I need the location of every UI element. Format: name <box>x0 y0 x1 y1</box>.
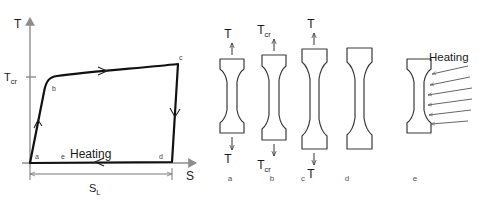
heating-ray-5 <box>429 110 471 115</box>
point-label-b: b <box>52 85 56 92</box>
dimension-label-sub: L <box>96 188 100 197</box>
specimen-e-heating-rays <box>428 66 472 124</box>
specimen-a: T T a <box>220 27 244 183</box>
heating-ray-2 <box>430 77 470 85</box>
ts-cycle-panel: T S Tcr SL Heating a b c d e <box>4 17 196 197</box>
specimen-a-bottom-force-label: T <box>224 152 232 166</box>
y-tick-label-sub: cr <box>11 77 18 86</box>
x-axis-label: S <box>186 169 194 183</box>
specimen-c-body <box>302 49 327 149</box>
specimen-c-bottom-force-label: T <box>307 167 315 181</box>
point-label-c: c <box>179 54 183 61</box>
specimen-a-caption: a <box>228 174 233 183</box>
point-label-a: a <box>35 153 39 160</box>
heating-ray-6 <box>431 121 468 124</box>
specimen-e-caption: e <box>413 174 418 183</box>
specimen-b-body <box>262 55 286 140</box>
point-label-e: e <box>61 153 65 160</box>
specimen-e: Heating e <box>407 51 472 183</box>
specimen-panel: T T a Tcr Tcr b T T c <box>220 17 472 183</box>
figure-svg: T S Tcr SL Heating a b c d e T T a <box>0 0 482 200</box>
specimen-d-caption: d <box>345 174 349 183</box>
specimen-d-body <box>347 48 372 149</box>
specimen-b-top-force-label: Tcr <box>257 23 271 39</box>
heating-ray-1 <box>432 66 468 74</box>
specimen-b: Tcr Tcr b <box>257 23 286 183</box>
specimen-a-body <box>220 59 244 133</box>
specimen-b-bottom-force-label: Tcr <box>257 158 271 174</box>
specimen-c-caption: c <box>301 174 305 183</box>
y-axis-label: T <box>14 17 22 31</box>
specimen-e-body <box>407 59 431 133</box>
heating-ray-3 <box>428 88 472 95</box>
specimen-b-top-force-sub: cr <box>265 30 272 39</box>
specimen-e-heating-label: Heating <box>429 51 469 63</box>
dimension-label-main: S <box>89 182 96 194</box>
heating-ray-4 <box>428 99 472 105</box>
y-tick-label: Tcr <box>4 71 17 86</box>
process-label-heating: Heating <box>70 147 111 161</box>
specimen-a-top-force-label: T <box>224 27 232 41</box>
figure-root: T S Tcr SL Heating a b c d e T T a <box>0 0 482 200</box>
specimen-c: T T c <box>301 17 327 183</box>
specimen-b-bottom-force-sub: cr <box>265 165 272 174</box>
specimen-c-top-force-label: T <box>307 17 315 31</box>
specimen-b-caption: b <box>270 174 275 183</box>
dimension-label: SL <box>89 182 101 197</box>
specimen-d: d <box>345 48 372 183</box>
point-label-d: d <box>159 153 163 160</box>
